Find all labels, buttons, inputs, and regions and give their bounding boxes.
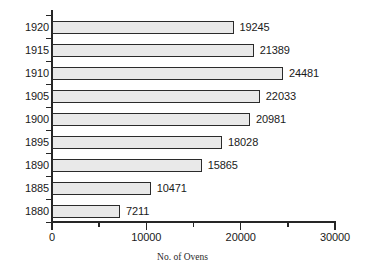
y-axis-tick-label: 1895 — [25, 137, 49, 148]
bar — [52, 136, 222, 149]
bar — [52, 182, 151, 195]
x-axis-tick-major — [334, 223, 336, 230]
bar-row: 15865 — [52, 159, 335, 172]
y-axis-tick — [46, 199, 52, 201]
y-axis-tick — [46, 130, 52, 132]
bar — [52, 113, 250, 126]
x-axis-tick-minor — [98, 223, 100, 227]
x-axis-tick-label: 30000 — [320, 232, 350, 243]
bar-value-label: 15865 — [208, 160, 238, 171]
x-axis-tick-label: 0 — [49, 232, 55, 243]
bar-value-label: 20981 — [256, 114, 286, 125]
y-axis-tick-label: 1905 — [25, 91, 49, 102]
bar — [52, 159, 202, 172]
bar — [52, 67, 283, 80]
y-axis-tick — [46, 61, 52, 63]
x-axis-tick-major — [146, 223, 148, 230]
y-axis-tick-label: 1880 — [25, 206, 49, 217]
x-axis-tick-minor — [193, 223, 195, 227]
bar-value-label: 21389 — [260, 45, 290, 56]
y-axis-tick-label: 1890 — [25, 160, 49, 171]
bar-row: 24481 — [52, 67, 335, 80]
y-axis-tick-label: 1885 — [25, 183, 49, 194]
x-axis-tick-major — [51, 223, 53, 230]
bar-row: 19245 — [52, 21, 335, 34]
bar-row: 7211 — [52, 205, 335, 218]
x-axis-title: No. of Ovens — [0, 253, 365, 263]
x-axis-tick-minor — [287, 223, 289, 227]
y-axis-tick — [46, 176, 52, 178]
y-axis-tick — [46, 153, 52, 155]
y-axis-tick — [46, 107, 52, 109]
bar — [52, 90, 260, 103]
bar — [52, 21, 234, 34]
bar — [52, 205, 120, 218]
bar-value-label: 19245 — [240, 22, 270, 33]
bar-value-label: 22033 — [266, 91, 296, 102]
y-axis-tick-label: 1920 — [25, 22, 49, 33]
x-axis-tick-label: 10000 — [131, 232, 161, 243]
bar-row: 22033 — [52, 90, 335, 103]
bar-value-label: 18028 — [228, 137, 258, 148]
bar-value-label: 10471 — [157, 183, 187, 194]
bar — [52, 44, 254, 57]
bar-row: 20981 — [52, 113, 335, 126]
x-axis-tick-major — [240, 223, 242, 230]
y-axis-tick — [46, 38, 52, 40]
x-axis-tick-label: 20000 — [226, 232, 256, 243]
y-axis-tick — [46, 15, 52, 17]
bar-value-label: 7211 — [126, 206, 149, 217]
y-axis-tick-label: 1910 — [25, 68, 49, 79]
y-axis-tick-label: 1915 — [25, 45, 49, 56]
bar-chart: 7211104711586518028209812203324481213891… — [0, 0, 365, 277]
bar-row: 21389 — [52, 44, 335, 57]
bar-row: 10471 — [52, 182, 335, 195]
bar-value-label: 24481 — [289, 68, 319, 79]
y-axis-tick — [46, 84, 52, 86]
y-axis-tick-label: 1900 — [25, 114, 49, 125]
bar-row: 18028 — [52, 136, 335, 149]
